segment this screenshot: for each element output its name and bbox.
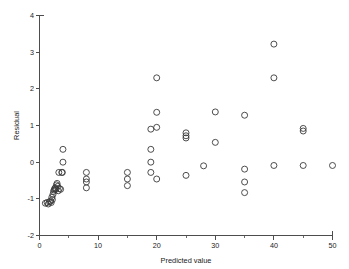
y-tick-label: -2 bbox=[28, 231, 34, 240]
y-tick-label: 1 bbox=[30, 121, 34, 130]
axis-spines bbox=[40, 16, 333, 236]
data-point bbox=[271, 162, 277, 168]
data-point bbox=[60, 146, 66, 152]
data-point bbox=[148, 126, 154, 132]
data-point bbox=[242, 166, 248, 172]
data-point bbox=[330, 162, 336, 168]
data-point bbox=[83, 185, 89, 191]
data-point bbox=[212, 139, 218, 145]
data-point bbox=[154, 109, 160, 115]
data-point bbox=[60, 159, 66, 165]
y-tick-label: 3 bbox=[30, 48, 34, 57]
plot-canvas: -2-10123401020304050Predicted valueResid… bbox=[0, 0, 349, 269]
data-point bbox=[242, 112, 248, 118]
x-tick-label: 50 bbox=[329, 241, 337, 250]
x-tick-label: 0 bbox=[38, 241, 42, 250]
data-point bbox=[242, 179, 248, 185]
data-point bbox=[154, 124, 160, 130]
data-point bbox=[83, 169, 89, 175]
data-point bbox=[300, 162, 306, 168]
data-point bbox=[271, 75, 277, 81]
data-point bbox=[124, 183, 130, 189]
x-tick-label: 10 bbox=[94, 241, 102, 250]
data-point bbox=[148, 159, 154, 165]
x-axis-title: Predicted value bbox=[161, 256, 212, 265]
data-point bbox=[212, 109, 218, 115]
y-tick-label: 2 bbox=[30, 84, 34, 93]
data-point bbox=[124, 176, 130, 182]
x-tick-label: 20 bbox=[153, 241, 161, 250]
data-point bbox=[201, 163, 207, 169]
data-point bbox=[154, 75, 160, 81]
y-tick-label: -1 bbox=[28, 194, 34, 203]
x-tick-label: 30 bbox=[211, 241, 219, 250]
y-tick-label: 4 bbox=[30, 11, 34, 20]
data-point bbox=[124, 169, 130, 175]
data-point bbox=[242, 190, 248, 196]
data-point bbox=[148, 146, 154, 152]
y-axis-title: Residual bbox=[12, 111, 21, 140]
data-points-group bbox=[42, 41, 335, 207]
scatter-plot-figure: -2-10123401020304050Predicted valueResid… bbox=[0, 0, 349, 269]
data-point bbox=[183, 172, 189, 178]
x-tick-label: 40 bbox=[270, 241, 278, 250]
data-point bbox=[148, 169, 154, 175]
y-tick-label: 0 bbox=[30, 158, 34, 167]
data-point bbox=[154, 176, 160, 182]
data-point bbox=[271, 41, 277, 47]
